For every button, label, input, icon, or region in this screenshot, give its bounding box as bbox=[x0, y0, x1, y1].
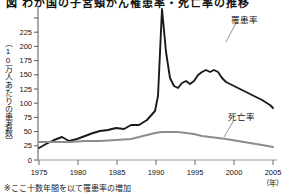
x-tick-label-2000: 2000 bbox=[226, 168, 243, 177]
chart-canvas: 0 25 50 75 100 125 150 175 200 225 bbox=[0, 0, 294, 194]
axes-group: 0 25 50 75 100 125 150 175 200 225 bbox=[19, 6, 281, 177]
chart-figure: 図 わが国の子宮頸がん罹患率・死亡率の推移 0 25 5 bbox=[0, 0, 294, 194]
mortality-rate-label: 死亡率 bbox=[228, 110, 255, 122]
x-tick-labels: 1975 1980 1985 1990 1995 2000 2005 bbox=[31, 168, 282, 177]
y-tick-label-100: 100 bbox=[19, 99, 32, 108]
x-tick-label-1985: 1985 bbox=[109, 168, 126, 177]
y-tick-label-0: 0 bbox=[28, 156, 32, 165]
y-tick-label-125: 125 bbox=[19, 85, 32, 94]
y-tick-label-150: 150 bbox=[19, 70, 32, 79]
x-tick-label-1975: 1975 bbox=[31, 168, 48, 177]
y-tick-label-25: 25 bbox=[24, 141, 32, 150]
y-tick-label-200: 200 bbox=[19, 42, 32, 51]
y-tick-labels: 0 25 50 75 100 125 150 175 200 225 bbox=[19, 28, 32, 165]
x-tick-label-1980: 1980 bbox=[70, 168, 87, 177]
x-tick-label-1995: 1995 bbox=[187, 168, 204, 177]
mortality-leader-line bbox=[224, 120, 234, 137]
x-tick-marks bbox=[39, 160, 273, 165]
y-tick-label-175: 175 bbox=[19, 56, 32, 65]
y-tick-label-75: 75 bbox=[24, 113, 32, 122]
x-tick-label-1990: 1990 bbox=[148, 168, 165, 177]
incidence-rate-label: 罹患率 bbox=[231, 13, 258, 25]
y-tick-label-225: 225 bbox=[19, 28, 32, 37]
y-axis-title: （10万人あたりの患者数） bbox=[4, 39, 13, 145]
incidence-leader-line bbox=[226, 23, 236, 42]
chart-caption-strip: ※ここ十数年間を以て罹患率の増加 bbox=[0, 182, 294, 194]
y-axis-title-box: （10万人あたりの患者数） bbox=[1, 28, 15, 156]
chart-caption: ※ここ十数年間を以て罹患率の増加 bbox=[4, 182, 131, 193]
y-tick-label-50: 50 bbox=[24, 127, 32, 136]
x-tick-label-2005: 2005 bbox=[265, 168, 282, 177]
y-tick-marks bbox=[34, 18, 38, 160]
incidence-rate-line bbox=[39, 9, 273, 148]
